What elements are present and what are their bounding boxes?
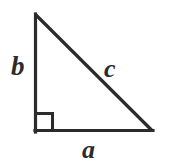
label-leg-b: b xyxy=(11,53,25,80)
label-leg-a: a xyxy=(82,137,95,163)
right-angle-square-icon xyxy=(35,114,53,132)
label-hypotenuse-c: c xyxy=(104,56,116,82)
right-triangle-figure: b c a xyxy=(0,0,171,165)
